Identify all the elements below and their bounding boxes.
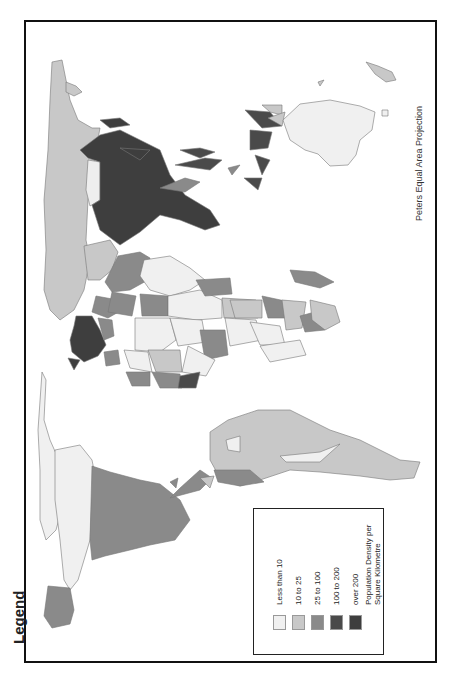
legend-swatch-less-than-10 xyxy=(273,615,286,630)
region-africa-north xyxy=(140,256,205,296)
legend-swatch-10-to-25 xyxy=(292,615,305,630)
region-china-india xyxy=(80,130,220,245)
region-alaska xyxy=(44,586,74,628)
projection-label: Peters Equal Area Projection xyxy=(414,106,424,221)
world-map xyxy=(0,0,455,686)
legend-label-10-to-25: 10 to 25 xyxy=(294,576,303,605)
region-canada xyxy=(55,445,96,590)
legend-label-less-than-10: Less than 10 xyxy=(275,559,284,605)
legend-caption: Population Density per Square Kilometre xyxy=(364,515,382,605)
legend-label-over-200: over 200 xyxy=(351,574,360,605)
legend-label-100-to-200: 100 to 200 xyxy=(332,567,341,605)
region-mongolia xyxy=(86,160,100,206)
legend-swatch-25-to-100 xyxy=(311,615,324,630)
legend-swatch-over-200 xyxy=(349,615,362,630)
legend-swatch-100-to-200 xyxy=(330,615,343,630)
region-australia xyxy=(283,100,375,166)
legend-label-25-to-100: 25 to 100 xyxy=(313,572,322,605)
region-new-zealand xyxy=(366,62,396,82)
legend-title: Legend xyxy=(10,591,27,644)
